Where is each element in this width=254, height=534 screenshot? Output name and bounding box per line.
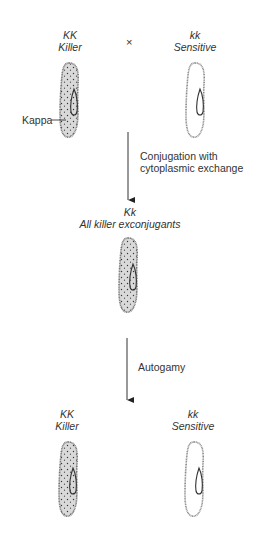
phenotype-label: Sensitive bbox=[163, 420, 223, 432]
parent-left-label: KK Killer bbox=[45, 29, 95, 53]
genotype-label: kk bbox=[165, 29, 225, 41]
progeny-right-label: kk Sensitive bbox=[163, 408, 223, 432]
phenotype-label: Killer bbox=[45, 41, 95, 53]
phenotype-label: Killer bbox=[42, 420, 92, 432]
killer-paramecium-bottom bbox=[59, 442, 77, 516]
genotype-label: Kk bbox=[60, 206, 200, 218]
diagram-canvas bbox=[0, 0, 254, 534]
phenotype-label: All killer exconjugants bbox=[60, 218, 200, 230]
killer-paramecium-top bbox=[60, 63, 78, 137]
exconjugant-paramecium bbox=[119, 238, 137, 312]
exconjugant-label: Kk All killer exconjugants bbox=[60, 206, 200, 230]
progeny-left-label: KK Killer bbox=[42, 408, 92, 432]
cross-symbol: × bbox=[126, 36, 132, 48]
autogamy-label: Autogamy bbox=[138, 361, 185, 373]
genotype-label: KK bbox=[45, 29, 95, 41]
conjugation-label-line1: Conjugation with bbox=[140, 150, 243, 162]
phenotype-label: Sensitive bbox=[165, 41, 225, 53]
genotype-label: kk bbox=[163, 408, 223, 420]
conjugation-label: Conjugation with cytoplasmic exchange bbox=[140, 150, 243, 174]
conjugation-label-line2: cytoplasmic exchange bbox=[140, 162, 243, 174]
parent-right-label: kk Sensitive bbox=[165, 29, 225, 53]
genotype-label: KK bbox=[42, 408, 92, 420]
sensitive-paramecium-top bbox=[186, 63, 204, 137]
kappa-label: Kappa bbox=[22, 114, 52, 126]
sensitive-paramecium-bottom bbox=[185, 442, 203, 516]
